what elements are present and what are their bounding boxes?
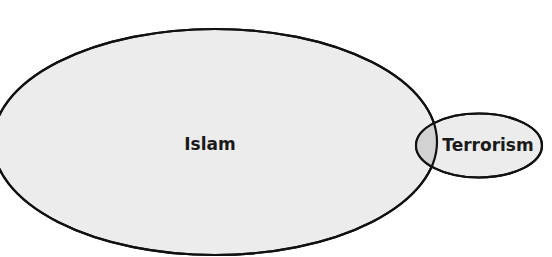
set-label-terrorism: Terrorism <box>442 135 533 155</box>
venn-diagram: Islam Terrorism <box>0 0 552 257</box>
set-label-islam: Islam <box>184 134 235 154</box>
